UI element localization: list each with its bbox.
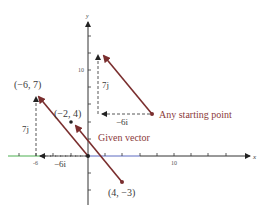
point-label-neg2-4: (−2, 4) xyxy=(54,108,81,120)
y-tick-label-10: 10 xyxy=(78,67,84,73)
x-tick-label-10: 10 xyxy=(171,160,177,166)
left-7j-label: 7j xyxy=(22,124,29,134)
point-neg2-4 xyxy=(69,120,73,124)
given-vector-label: Given vector xyxy=(98,132,151,143)
x-tick-label-neg6: -6 xyxy=(33,160,38,166)
point-4-neg3 xyxy=(120,180,124,184)
origin-point xyxy=(86,154,90,158)
x-axis-label: x xyxy=(252,153,257,161)
vector-diagram: x -6 10 y 10 7j −6i 7j −6i xyxy=(0,0,273,212)
any-starting-point-label: Any starting point xyxy=(159,109,232,120)
point-label-4-neg3: (4, −3) xyxy=(108,187,135,199)
left-neg6i-label: −6i xyxy=(54,159,67,169)
x-axis: x -6 10 xyxy=(8,153,257,166)
vector-origin-to-neg6-7 xyxy=(39,97,88,156)
right-component-vectors: 7j −6i xyxy=(98,55,150,127)
right-neg6i-label: −6i xyxy=(116,117,129,127)
right-7j-label: 7j xyxy=(102,80,109,90)
point-any-start xyxy=(150,112,154,116)
point-label-neg6-7: (−6, 7) xyxy=(14,79,41,91)
vector-any-start xyxy=(104,56,152,114)
y-axis-label: y xyxy=(85,13,89,19)
